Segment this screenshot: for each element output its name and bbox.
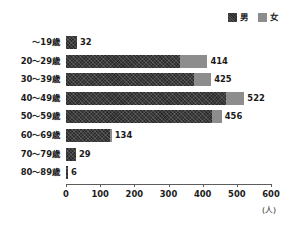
bar-segment-male[interactable] <box>66 36 77 49</box>
axis-tick-label: 300 <box>160 189 177 199</box>
legend-label-male: 男 <box>240 13 249 22</box>
axis-tick-mark <box>134 184 135 187</box>
bar-value-label: 6 <box>71 164 77 181</box>
axis-tick-label: 200 <box>126 189 143 199</box>
bar-segment-male[interactable] <box>66 92 226 105</box>
bar-segment-male[interactable] <box>66 129 110 142</box>
bar-value-label: 522 <box>247 90 264 107</box>
bar-segment-male[interactable] <box>66 166 68 179</box>
chart-row: 20～29歳414 <box>0 53 295 70</box>
category-label: 40～49歳 <box>0 90 60 107</box>
bar-track <box>66 129 271 142</box>
bar-value-label: 32 <box>80 34 92 51</box>
stacked-bar[interactable] <box>66 148 76 161</box>
axis-tick-mark <box>100 184 101 187</box>
bar-segment-male[interactable] <box>66 73 194 86</box>
axis-tick-mark <box>271 184 272 187</box>
axis-tick-label: 100 <box>91 189 108 199</box>
stacked-bar[interactable] <box>66 166 68 179</box>
plot-area: ～19歳3220～29歳41430～39歳42540～49歳52250～59歳4… <box>0 34 295 184</box>
category-label: 50～59歳 <box>0 108 60 125</box>
square-swatch-icon <box>228 13 237 22</box>
bar-value-label: 425 <box>214 71 231 88</box>
bar-segment-male[interactable] <box>66 110 212 123</box>
chart-row: 70～79歳29 <box>0 146 295 163</box>
axis-tick-mark <box>169 184 170 187</box>
category-label: 80～89歳 <box>0 164 60 181</box>
stacked-bar[interactable] <box>66 36 77 49</box>
bar-chart: 男 女 ～19歳3220～29歳41430～39歳42540～49歳52250～… <box>0 0 295 225</box>
axis-tick-mark <box>66 184 67 187</box>
category-label: 30～39歳 <box>0 71 60 88</box>
chart-row: 80～89歳6 <box>0 164 295 181</box>
stacked-bar[interactable] <box>66 92 244 105</box>
stacked-bar[interactable] <box>66 55 207 68</box>
bar-segment-female[interactable] <box>180 55 207 68</box>
chart-row: 60～69歳134 <box>0 127 295 144</box>
axis-tick-label: 0 <box>63 189 69 199</box>
chart-row: 40～49歳522 <box>0 90 295 107</box>
stacked-bar[interactable] <box>66 73 211 86</box>
axis-tick-label: 400 <box>194 189 211 199</box>
stacked-bar[interactable] <box>66 110 222 123</box>
axis-tick-label: 600 <box>262 189 279 199</box>
square-swatch-icon <box>258 13 267 22</box>
bar-track <box>66 148 271 161</box>
legend-item-female: 女 <box>258 13 279 22</box>
chart-legend: 男 女 <box>228 13 279 22</box>
bar-segment-female[interactable] <box>212 110 222 123</box>
category-label: 20～29歳 <box>0 53 60 70</box>
bar-value-label: 134 <box>115 127 132 144</box>
bar-segment-male[interactable] <box>66 55 180 68</box>
axis-tick-label: 500 <box>228 189 245 199</box>
axis-tick-mark <box>203 184 204 187</box>
chart-row: 50～59歳456 <box>0 108 295 125</box>
bar-value-label: 414 <box>210 53 227 70</box>
bar-value-label: 29 <box>79 146 91 163</box>
bar-segment-female[interactable] <box>226 92 244 105</box>
category-label: 70～79歳 <box>0 146 60 163</box>
bar-value-label: 456 <box>225 108 242 125</box>
bar-track <box>66 73 271 86</box>
category-label: 60～69歳 <box>0 127 60 144</box>
x-axis: 0100200300400500600 <box>66 184 271 185</box>
chart-row: ～19歳32 <box>0 34 295 51</box>
bar-track <box>66 55 271 68</box>
bar-segment-female[interactable] <box>194 73 211 86</box>
axis-tick-mark <box>237 184 238 187</box>
bar-track <box>66 166 271 179</box>
legend-label-female: 女 <box>270 13 279 22</box>
bar-segment-female[interactable] <box>110 129 112 142</box>
axis-unit-label: (人) <box>262 204 276 215</box>
bar-track <box>66 92 271 105</box>
category-label: ～19歳 <box>0 34 60 51</box>
bar-track <box>66 36 271 49</box>
legend-item-male: 男 <box>228 13 249 22</box>
stacked-bar[interactable] <box>66 129 112 142</box>
bar-segment-male[interactable] <box>66 148 76 161</box>
chart-row: 30～39歳425 <box>0 71 295 88</box>
